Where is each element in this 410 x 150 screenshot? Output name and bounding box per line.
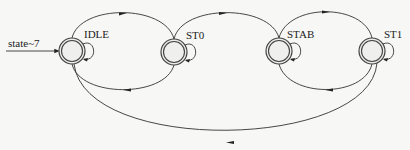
reset-transition: state~7	[6, 37, 57, 51]
state-diagram: state~7 IDLE ST0 STAB	[0, 0, 410, 150]
reset-label: state~7	[8, 37, 40, 49]
state-label: STAB	[287, 28, 314, 40]
state-node-st1: ST1	[359, 28, 402, 64]
arrowhead-icon	[325, 89, 333, 92]
edge-st1-to-idle	[74, 63, 377, 130]
state-label: ST0	[186, 29, 205, 41]
state-node-stab: STAB	[266, 28, 314, 64]
arrowhead-icon	[226, 141, 234, 144]
state-node-st0: ST0	[161, 29, 205, 65]
arrowhead-icon	[119, 13, 127, 16]
arrowhead-icon	[322, 11, 330, 14]
state-label: IDLE	[84, 28, 109, 40]
state-node-idle: IDLE	[59, 28, 109, 64]
edge-st0-to-idle	[72, 64, 174, 90]
edge-st1-to-stab	[279, 64, 372, 90]
arrowhead-icon	[123, 89, 131, 92]
state-label: ST1	[384, 28, 402, 40]
